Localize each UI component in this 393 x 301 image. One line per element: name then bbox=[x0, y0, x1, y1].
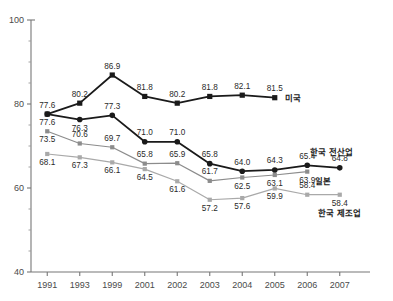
data-point-value-label: 77.3 bbox=[104, 102, 120, 111]
series-layer bbox=[44, 72, 342, 201]
x-tick-label: 1999 bbox=[102, 280, 122, 290]
data-point-value-label: 82.1 bbox=[234, 82, 250, 91]
x-tick-label: 1991 bbox=[37, 280, 57, 290]
data-point-value-label: 68.1 bbox=[39, 158, 55, 167]
data-point-marker bbox=[175, 161, 179, 165]
x-tick-label: 2006 bbox=[297, 280, 317, 290]
series-3 bbox=[45, 152, 342, 202]
data-point-value-label: 81.5 bbox=[267, 84, 283, 93]
data-point-value-label: 63.1 bbox=[267, 179, 283, 188]
data-point-value-label: 80.2 bbox=[72, 90, 88, 99]
data-point-marker bbox=[305, 170, 309, 174]
data-point-marker bbox=[272, 95, 277, 100]
data-point-marker bbox=[338, 193, 342, 197]
data-point-marker bbox=[110, 72, 115, 77]
data-point-marker bbox=[175, 101, 180, 106]
x-tick-label: 2007 bbox=[330, 280, 350, 290]
x-tick-label: 2002 bbox=[167, 280, 187, 290]
data-point-marker bbox=[239, 168, 245, 174]
data-point-value-label: 69.7 bbox=[104, 134, 120, 143]
data-point-value-label: 77.6 bbox=[39, 118, 55, 127]
x-tick-label: 1993 bbox=[70, 280, 90, 290]
data-point-marker bbox=[77, 117, 83, 123]
data-point-marker bbox=[208, 198, 212, 202]
x-tick-label: 2003 bbox=[200, 280, 220, 290]
data-point-marker bbox=[240, 196, 244, 200]
data-point-value-label: 71.0 bbox=[169, 128, 185, 137]
x-tick-label: 2004 bbox=[232, 280, 252, 290]
data-point-value-label: 65.8 bbox=[137, 150, 153, 159]
data-point-value-label: 64.5 bbox=[137, 173, 153, 182]
data-point-marker bbox=[272, 167, 278, 173]
data-point-marker bbox=[208, 179, 212, 183]
x-tick-label: 2005 bbox=[265, 280, 285, 290]
data-point-value-label: 58.4 bbox=[332, 199, 348, 208]
data-point-marker bbox=[240, 175, 244, 179]
data-point-marker bbox=[207, 94, 212, 99]
data-point-marker bbox=[273, 173, 277, 177]
data-point-marker bbox=[143, 162, 147, 166]
data-point-marker bbox=[110, 145, 114, 149]
y-tick-label: 80 bbox=[14, 99, 24, 109]
data-point-value-label: 70.6 bbox=[72, 130, 88, 139]
y-tick-label: 40 bbox=[14, 267, 24, 277]
data-point-marker bbox=[207, 161, 213, 167]
series-end-labels-layer: 미국한국 전산업일본한국 제조업 bbox=[285, 93, 361, 218]
data-point-marker bbox=[305, 193, 309, 197]
data-point-value-label: 80.2 bbox=[169, 90, 185, 99]
data-point-marker bbox=[44, 111, 50, 117]
data-point-marker bbox=[78, 141, 82, 145]
data-point-marker bbox=[174, 139, 180, 145]
data-point-marker bbox=[240, 93, 245, 98]
data-point-value-label: 57.6 bbox=[234, 202, 250, 211]
series-1 bbox=[44, 111, 342, 174]
data-point-value-label: 81.8 bbox=[137, 83, 153, 92]
data-point-value-label: 58.4 bbox=[299, 181, 315, 190]
data-point-marker bbox=[110, 160, 114, 164]
data-point-value-label: 59.9 bbox=[267, 192, 283, 201]
series-name-label: 일본 bbox=[315, 176, 331, 186]
data-point-value-label: 65.8 bbox=[202, 150, 218, 159]
data-point-value-label: 65.9 bbox=[169, 150, 185, 159]
data-point-marker bbox=[304, 163, 310, 169]
data-point-marker bbox=[142, 139, 148, 145]
data-point-value-label: 77.6 bbox=[39, 101, 55, 110]
data-point-value-label: 57.2 bbox=[202, 204, 218, 213]
data-point-value-label: 71.0 bbox=[137, 128, 153, 137]
data-point-value-label: 64.0 bbox=[234, 158, 250, 167]
data-point-value-label: 64.3 bbox=[267, 156, 283, 165]
data-point-marker bbox=[337, 165, 343, 171]
data-point-marker bbox=[45, 152, 49, 156]
data-point-value-label: 61.6 bbox=[169, 185, 185, 194]
data-point-marker bbox=[142, 94, 147, 99]
data-point-marker bbox=[78, 155, 82, 159]
series-name-label: 미국 bbox=[285, 93, 301, 103]
data-point-marker bbox=[175, 179, 179, 183]
data-point-marker bbox=[109, 113, 115, 119]
series-name-label: 한국 제조업 bbox=[318, 208, 361, 218]
data-point-marker bbox=[143, 167, 147, 171]
y-tick-label: 100 bbox=[9, 15, 24, 25]
series-name-label: 한국 전산업 bbox=[310, 147, 353, 157]
data-point-value-label: 86.9 bbox=[104, 62, 120, 71]
data-point-value-label: 61.7 bbox=[202, 167, 218, 176]
line-chart: 4060801001991199319992001200220032004200… bbox=[0, 0, 393, 301]
data-point-value-label: 81.8 bbox=[202, 83, 218, 92]
data-point-marker bbox=[45, 129, 49, 133]
data-point-value-label: 66.1 bbox=[104, 166, 120, 175]
data-point-value-label: 73.5 bbox=[39, 135, 55, 144]
data-point-value-label: 62.5 bbox=[234, 182, 250, 191]
x-tick-label: 2001 bbox=[135, 280, 155, 290]
data-point-value-label: 67.3 bbox=[72, 161, 88, 170]
y-tick-label: 60 bbox=[14, 183, 24, 193]
chart-plot-area: 4060801001991199319992001200220032004200… bbox=[0, 0, 393, 301]
data-point-marker bbox=[77, 101, 82, 106]
